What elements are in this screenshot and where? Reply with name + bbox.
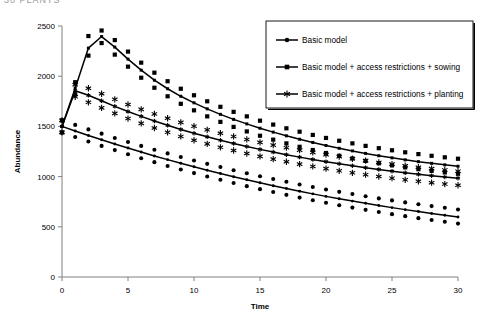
fit-marker-square [325, 144, 328, 147]
data-point-square [218, 120, 222, 124]
fit-marker-square [87, 47, 90, 50]
data-point-asterisk [112, 110, 117, 116]
data-point-diamond [166, 164, 170, 168]
data-point-asterisk [297, 161, 302, 167]
fit-marker-diamond [404, 208, 407, 211]
data-point-asterisk [191, 123, 196, 129]
data-point-asterisk [138, 106, 143, 112]
fit-marker-diamond [391, 206, 394, 209]
x-axis-tick-label: 15 [256, 286, 265, 295]
data-point-diamond [179, 155, 183, 159]
data-point-diamond [100, 144, 104, 148]
fit-marker-square [245, 122, 248, 125]
data-point-square [390, 148, 394, 152]
data-point-diamond [258, 187, 262, 191]
data-point-diamond [139, 144, 143, 148]
data-point-square [350, 141, 354, 145]
data-point-square [284, 126, 288, 130]
data-point-square [377, 146, 381, 150]
fit-marker-diamond [219, 172, 222, 175]
data-point-diamond [298, 182, 302, 186]
fit-marker-diamond [100, 138, 103, 141]
data-point-square [430, 154, 434, 158]
fit-marker-diamond [206, 169, 209, 172]
data-point-diamond [364, 208, 368, 212]
data-point-square [416, 152, 420, 156]
data-point-diamond [245, 184, 249, 188]
data-point-asterisk [284, 145, 289, 151]
data-point-asterisk [86, 99, 91, 105]
data-point-diamond [152, 160, 156, 164]
data-point-diamond [271, 177, 275, 181]
fit-marker-square [127, 58, 130, 61]
data-point-asterisk [152, 111, 157, 117]
data-point-diamond [284, 180, 288, 184]
data-point-diamond [311, 185, 315, 189]
fit-marker-square [457, 165, 460, 168]
data-point-square [113, 53, 117, 57]
legend-marker-diamond [285, 38, 289, 42]
data-point-square [113, 38, 117, 42]
data-point-diamond [390, 198, 394, 202]
data-point-diamond [311, 198, 315, 202]
fit-marker-square [285, 134, 288, 137]
data-point-square [86, 34, 90, 38]
fit-marker-diamond [245, 178, 248, 181]
data-point-asterisk [402, 177, 407, 183]
chart-container: 30 PLANTS 050010001500200025000510152025… [0, 0, 480, 319]
data-point-diamond [113, 136, 117, 140]
fit-marker-diamond [351, 200, 354, 203]
fit-marker-diamond [443, 214, 446, 217]
y-axis-tick-label: 1500 [37, 122, 55, 131]
fit-marker-square [404, 158, 407, 161]
x-axis-tick-label: 5 [126, 286, 131, 295]
fit-marker-square [417, 160, 420, 163]
data-point-asterisk [310, 163, 315, 169]
fit-marker-diamond [127, 147, 130, 150]
fit-marker-diamond [259, 181, 262, 184]
data-point-diamond [443, 206, 447, 210]
data-point-square [271, 122, 275, 126]
fit-marker-diamond [364, 202, 367, 205]
fit-marker-diamond [87, 134, 90, 137]
data-point-square [166, 94, 170, 98]
data-point-square [245, 129, 249, 133]
data-point-asterisk [270, 156, 275, 162]
fit-marker-square [391, 156, 394, 159]
data-point-diamond [232, 168, 236, 172]
data-point-asterisk [86, 85, 91, 91]
data-point-diamond [416, 216, 420, 220]
x-axis-tick-label: 10 [190, 286, 199, 295]
data-point-square [139, 76, 143, 80]
y-axis-tick-label: 500 [42, 223, 56, 232]
fit-marker-square [219, 113, 222, 116]
fit-marker-square [364, 152, 367, 155]
data-point-square [232, 110, 236, 114]
data-point-asterisk [178, 119, 183, 125]
fit-marker-diamond [193, 165, 196, 168]
x-axis-tick-label: 30 [454, 286, 463, 295]
data-point-asterisk [231, 133, 236, 139]
data-point-square [152, 71, 156, 75]
x-axis-tick-label: 0 [60, 286, 65, 295]
fit-marker-diamond [153, 154, 156, 157]
fit-marker-square [272, 131, 275, 134]
data-point-asterisk [244, 136, 249, 142]
data-point-square [100, 28, 104, 32]
data-point-square [139, 61, 143, 65]
y-axis-title: Abundance [13, 129, 22, 173]
data-point-square [166, 79, 170, 83]
data-point-diamond [298, 196, 302, 200]
fit-marker-square [206, 107, 209, 110]
data-point-diamond [324, 187, 328, 191]
data-point-square [179, 87, 183, 91]
fit-marker-diamond [430, 212, 433, 215]
data-point-asterisk [442, 181, 447, 187]
data-point-diamond [377, 210, 381, 214]
legend-label-0: Basic model [302, 35, 347, 45]
data-point-asterisk [455, 182, 460, 188]
x-axis-title: Time [251, 302, 270, 311]
fit-marker-diamond [285, 187, 288, 190]
data-point-diamond [218, 178, 222, 182]
data-point-asterisk [257, 153, 262, 159]
